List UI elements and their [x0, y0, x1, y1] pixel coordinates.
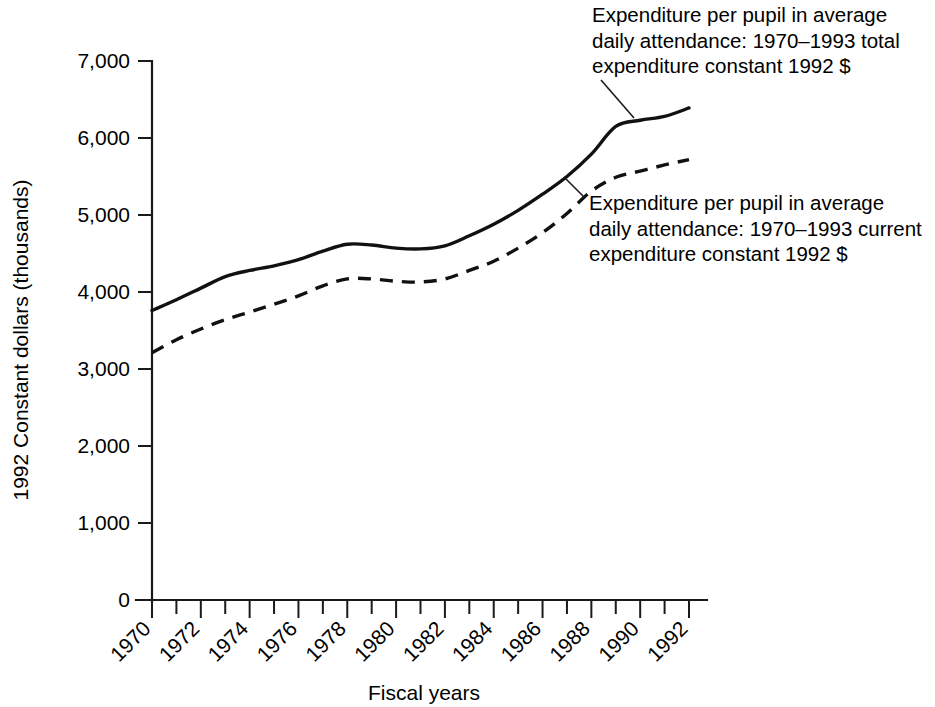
y-axis-tick-label: 7,000	[77, 49, 130, 72]
y-axis-tick-label: 0	[118, 588, 130, 611]
y-axis-tick-label: 3,000	[77, 357, 130, 380]
y-axis-title: 1992 Constant dollars (thousands)	[9, 179, 32, 500]
y-axis-tick-label: 2,000	[77, 434, 130, 457]
x-axis-title: Fiscal years	[368, 681, 480, 704]
y-axis-tick-label: 5,000	[77, 203, 130, 226]
annotation-current-expenditure-line: Expenditure per pupil in average	[589, 191, 884, 214]
annotation-total-expenditure-line: daily attendance: 1970–1993 total	[592, 29, 900, 52]
annotation-current-expenditure-line: daily attendance: 1970–1993 current	[589, 217, 922, 240]
line-chart-canvas: 01,0002,0003,0004,0005,0006,0007,000 197…	[0, 0, 935, 707]
annotation-total-expenditure-line: expenditure constant 1992 $	[592, 54, 851, 77]
annotation-current-expenditure-line: expenditure constant 1992 $	[589, 242, 848, 265]
y-axis-tick-label: 4,000	[77, 280, 130, 303]
annotation-total-expenditure-line: Expenditure per pupil in average	[592, 3, 887, 26]
y-axis-tick-label: 6,000	[77, 126, 130, 149]
chart-figure: 01,0002,0003,0004,0005,0006,0007,000 197…	[0, 0, 935, 707]
y-axis-tick-label: 1,000	[77, 511, 130, 534]
